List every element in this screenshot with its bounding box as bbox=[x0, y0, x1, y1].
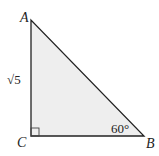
vertex-label-a: A bbox=[19, 10, 29, 25]
triangle-abc bbox=[31, 20, 144, 136]
vertex-label-c: C bbox=[17, 135, 27, 150]
triangle-diagram: A C B √5 60° bbox=[0, 0, 159, 156]
vertex-label-b: B bbox=[146, 136, 155, 151]
side-label-ac: √5 bbox=[7, 72, 21, 87]
angle-label-b: 60° bbox=[111, 121, 129, 136]
